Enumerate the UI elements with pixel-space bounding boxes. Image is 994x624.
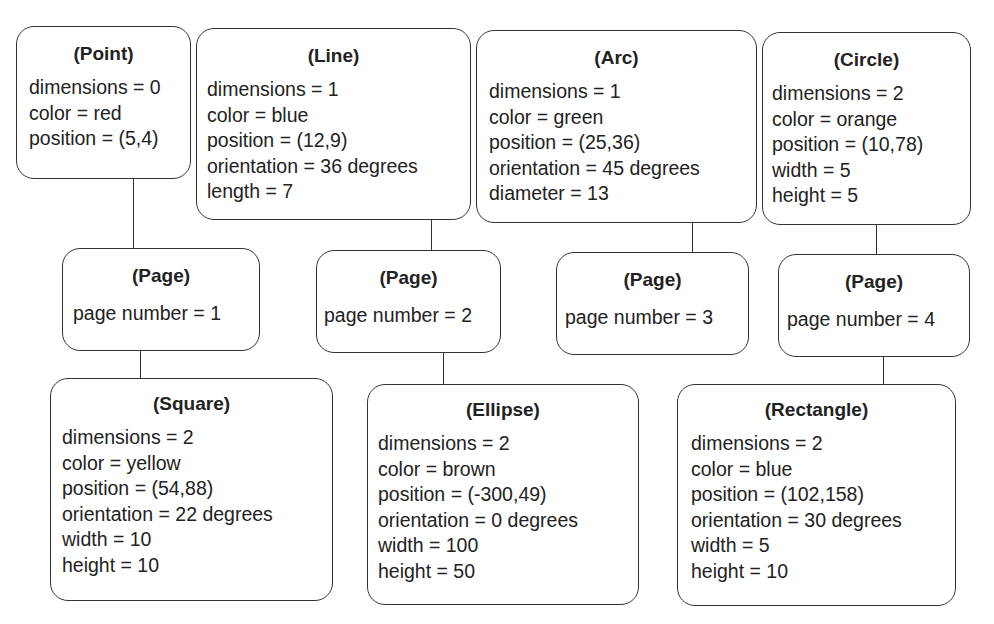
node-attribute: position = (5,4)	[29, 126, 190, 152]
node-attribute: dimensions = 2	[691, 431, 955, 457]
node-attribute: dimensions = 0	[29, 75, 190, 101]
node-attribute: page number = 2	[324, 303, 500, 329]
node-attribute: color = blue	[691, 457, 955, 483]
edge-page2-ellipse	[443, 352, 444, 384]
edge-page4-rectangle	[883, 356, 884, 384]
node-attribute: position = (54,88)	[62, 476, 332, 502]
node-attribute: width = 10	[62, 527, 332, 553]
node-attribute: position = (10,78)	[772, 132, 970, 158]
node-attribute: dimensions = 2	[62, 425, 332, 451]
node-attribute: color = yellow	[62, 451, 332, 477]
node-attribute: width = 5	[691, 533, 955, 559]
node-attribute: height = 50	[378, 559, 638, 585]
node-attribute: height = 5	[772, 183, 970, 209]
node-attribute: height = 10	[62, 553, 332, 579]
node-title: (Ellipse)	[368, 399, 638, 421]
node-circle: (Circle) dimensions = 2 color = orange p…	[762, 32, 971, 225]
node-attribute: color = green	[489, 105, 756, 131]
node-page-1: (Page) page number = 1	[62, 248, 260, 351]
node-title: (Page)	[779, 271, 969, 293]
edge-arc-page3	[692, 222, 693, 252]
node-attribute: orientation = 45 degrees	[489, 156, 756, 182]
node-attribute: position = (102,158)	[691, 482, 955, 508]
node-attribute: orientation = 0 degrees	[378, 508, 638, 534]
node-line: (Line) dimensions = 1 color = blue posit…	[196, 28, 471, 220]
node-title: (Point)	[17, 43, 190, 65]
node-title: (Page)	[63, 265, 259, 287]
node-title: (Square)	[51, 393, 332, 415]
node-attribute: diameter = 13	[489, 181, 756, 207]
node-title: (Page)	[317, 267, 500, 289]
node-title: (Rectangle)	[678, 399, 955, 421]
node-title: (Circle)	[763, 49, 970, 71]
node-attribute: dimensions = 2	[772, 81, 970, 107]
node-title: (Arc)	[477, 47, 756, 69]
node-attribute: width = 100	[378, 533, 638, 559]
node-title: (Line)	[197, 45, 470, 67]
node-attribute: position = (12,9)	[207, 128, 470, 154]
node-attribute: length = 7	[207, 179, 470, 205]
node-attribute: dimensions = 2	[378, 431, 638, 457]
edge-page1-square	[140, 350, 141, 378]
node-attribute: page number = 1	[73, 301, 259, 327]
node-attribute: color = red	[29, 101, 190, 127]
node-rectangle: (Rectangle) dimensions = 2 color = blue …	[677, 384, 956, 606]
node-square: (Square) dimensions = 2 color = yellow p…	[50, 378, 333, 601]
edge-circle-page4	[876, 224, 877, 254]
node-attribute: width = 5	[772, 158, 970, 184]
node-page-4: (Page) page number = 4	[778, 254, 970, 357]
node-attribute: height = 10	[691, 559, 955, 585]
node-attribute: color = orange	[772, 107, 970, 133]
node-attribute: dimensions = 1	[489, 79, 756, 105]
node-attribute: orientation = 30 degrees	[691, 508, 955, 534]
node-page-2: (Page) page number = 2	[316, 250, 501, 353]
node-attribute: page number = 3	[565, 305, 748, 331]
node-point: (Point) dimensions = 0 color = red posit…	[16, 26, 191, 179]
node-page-3: (Page) page number = 3	[556, 252, 749, 355]
node-attribute: color = brown	[378, 457, 638, 483]
node-attribute: position = (-300,49)	[378, 482, 638, 508]
node-ellipse: (Ellipse) dimensions = 2 color = brown p…	[367, 384, 639, 605]
node-title: (Page)	[557, 269, 748, 291]
edge-point-page1	[133, 178, 134, 248]
node-attribute: orientation = 36 degrees	[207, 154, 470, 180]
node-arc: (Arc) dimensions = 1 color = green posit…	[476, 30, 757, 223]
node-attribute: orientation = 22 degrees	[62, 502, 332, 528]
node-attribute: color = blue	[207, 103, 470, 129]
edge-line-page2	[431, 219, 432, 250]
node-attribute: position = (25,36)	[489, 130, 756, 156]
node-attribute: dimensions = 1	[207, 77, 470, 103]
node-attribute: page number = 4	[787, 307, 969, 333]
